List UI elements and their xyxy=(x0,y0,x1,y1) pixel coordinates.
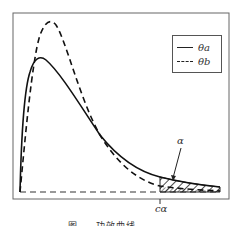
chart-figure xyxy=(0,0,237,226)
figure-caption: 图 … 功效曲线 xyxy=(68,219,136,226)
alpha-label: α xyxy=(177,135,184,146)
curve-theta-a xyxy=(20,58,220,192)
legend-label: θb xyxy=(198,56,210,67)
legend-item-theta-a: θa xyxy=(177,41,210,53)
legend-item-theta-b: θb xyxy=(177,55,210,67)
solid-line-icon xyxy=(177,47,193,48)
legend-label: θa xyxy=(198,42,210,53)
dashed-line-icon xyxy=(177,61,193,62)
c-alpha-label: cα xyxy=(155,203,167,214)
alpha-arrow xyxy=(173,148,181,178)
legend: θa θb xyxy=(172,35,222,73)
